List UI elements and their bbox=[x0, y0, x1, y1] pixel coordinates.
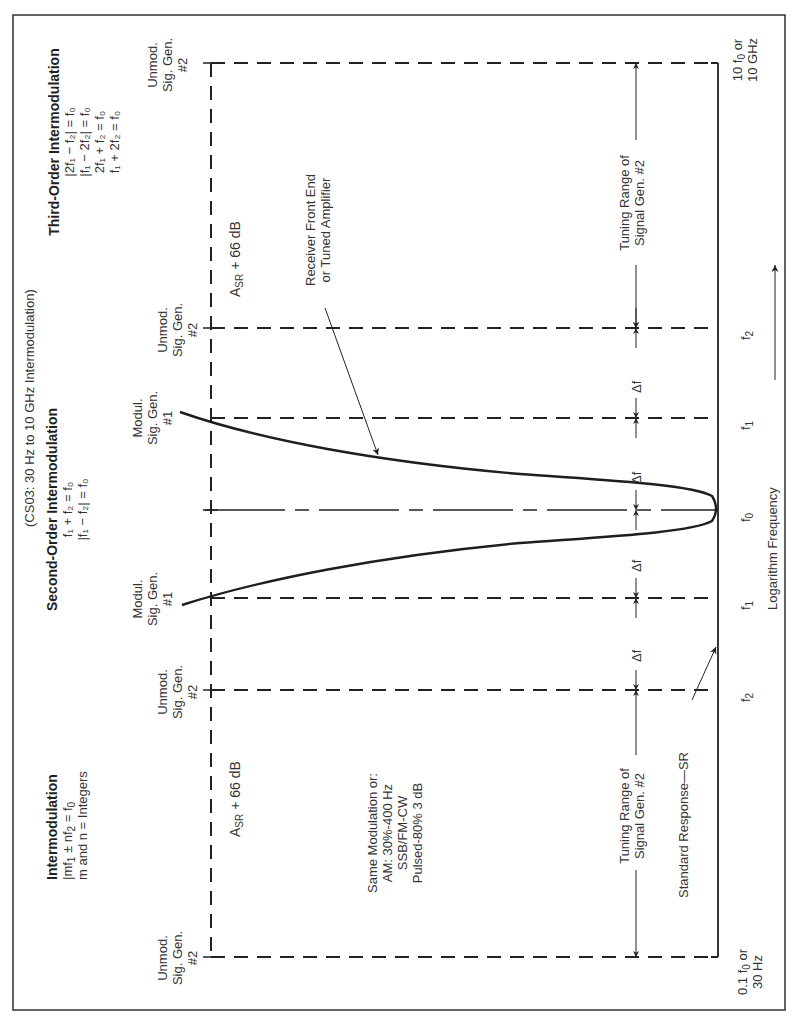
axis-f0: f0 bbox=[738, 513, 753, 522]
diagram-subtitle: (CS03: 30 Hz to 10 GHz Intermodulation) bbox=[22, 289, 37, 527]
receiver-pointer-arrow bbox=[325, 308, 378, 455]
receiver-front-end-label: Receiver Front End or Tuned Amplifier bbox=[303, 155, 333, 305]
third-order-eq1: |2f₁ − f₂| = f₀ bbox=[62, 32, 77, 252]
axis-high-label: 10 f0 or 10 GHz bbox=[730, 30, 760, 90]
intermodulation-block: Intermodulation |mf1 ± nf2 = f0 m and n … bbox=[45, 771, 90, 880]
unmod-sig-gen-label-lower: Unmod.Sig. Gen.#2 bbox=[155, 657, 200, 727]
standard-response-label: Standard Response—SR bbox=[676, 752, 691, 898]
third-order-eq4: f₁ + 2f₂ = f₀ bbox=[107, 32, 122, 252]
third-order-block: Third-Order Intermodulation |2f₁ − f₂| =… bbox=[47, 32, 122, 252]
third-order-eq2: |f₁ − 2f₂| = f₀ bbox=[77, 32, 92, 252]
axis-title: Logarithm Frequency bbox=[765, 487, 780, 610]
delta-f-label-3: Δf bbox=[629, 472, 644, 484]
tuning-range-label-lower: Tuning Range of Signal Gen. #2 bbox=[617, 757, 647, 875]
second-order-title: Second-Order Intermodulation bbox=[45, 382, 60, 637]
delta-f-label-2: Δf bbox=[629, 560, 644, 572]
axis-f1-lower: f1 bbox=[738, 601, 753, 610]
third-order-title: Third-Order Intermodulation bbox=[47, 32, 62, 252]
modul-sig-gen-label-lower: Modul.Sig. Gen.#1 bbox=[130, 564, 175, 634]
modul-sig-gen-label-upper: Modul.Sig. Gen.#1 bbox=[130, 383, 175, 453]
unmod-sig-gen-label-bottom: Unmod.Sig. Gen.#2 bbox=[155, 923, 200, 993]
axis-f2-lower: f2 bbox=[738, 693, 753, 702]
second-order-eq1: f₁ + f₂ = f₀ bbox=[60, 382, 75, 637]
delta-f-label-4: Δf bbox=[629, 381, 644, 393]
tuning-range-label-upper: Tuning Range of Signal Gen. #2 bbox=[617, 144, 647, 262]
intermodulation-note: m and n = Integers bbox=[75, 771, 90, 880]
unmod-sig-gen-label-upper: Unmod.Sig. Gen.#2 bbox=[155, 295, 200, 365]
second-order-block: Second-Order Intermodulation f₁ + f₂ = f… bbox=[45, 382, 90, 637]
standard-response-arrow bbox=[692, 647, 716, 700]
delta-f-label-1: Δf bbox=[629, 650, 644, 662]
unmod-sig-gen-label-top: Unmod.Sig. Gen.#2 bbox=[145, 30, 190, 100]
axis-low-label: 0.1 f0 or 30 Hz bbox=[735, 942, 765, 1002]
axis-f1-upper: f1 bbox=[738, 421, 753, 430]
level-label-upper: ASR + 66 dB bbox=[228, 221, 243, 297]
level-label-lower: ASR + 66 dB bbox=[228, 761, 243, 837]
second-order-eq2: |f₁ − f₂| = f₀ bbox=[75, 382, 90, 637]
modulation-note: Same Modulation or: AM: 30%-400 Hz SSB/F… bbox=[365, 763, 425, 903]
axis-f2-upper: f2 bbox=[738, 331, 753, 340]
third-order-eq3: 2f₁ + f₂ = f₀ bbox=[92, 32, 107, 252]
intermodulation-title: Intermodulation bbox=[45, 771, 60, 880]
intermodulation-equation: |mf1 ± nf2 = f0 bbox=[60, 771, 75, 880]
